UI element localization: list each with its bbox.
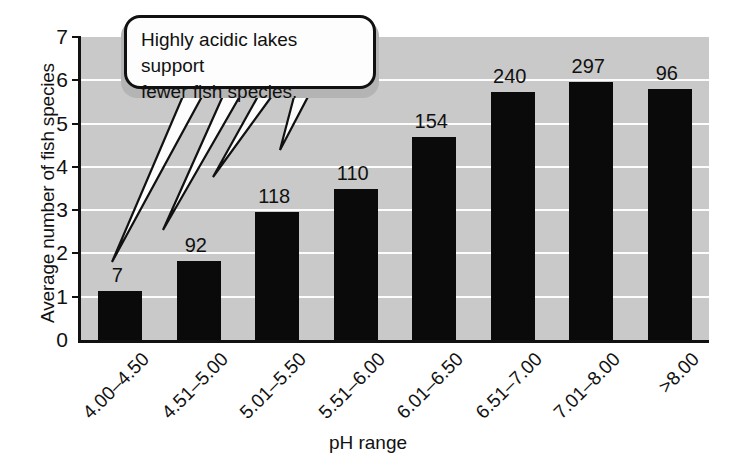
callout-text-line-2: fewer fish species. xyxy=(141,81,297,102)
x-axis-title: pH range xyxy=(0,432,736,454)
y-tick-label: 0 xyxy=(42,329,68,350)
callout-text-line-1: Highly acidic lakes support xyxy=(141,29,297,76)
bar-value-label: 96 xyxy=(627,63,707,83)
bar xyxy=(491,92,535,340)
annotation-callout: Highly acidic lakes support fewer fish s… xyxy=(124,15,376,89)
bar xyxy=(569,82,613,340)
bar xyxy=(98,291,142,340)
bar xyxy=(648,89,692,340)
y-tick-mark xyxy=(72,79,81,81)
chart-figure: Average number of fish species 01234567 … xyxy=(0,0,736,471)
bar xyxy=(255,212,299,340)
gridline xyxy=(81,296,709,298)
y-tick-mark xyxy=(72,123,81,125)
y-tick-label: 1 xyxy=(42,286,68,307)
bar-value-label: 240 xyxy=(470,66,550,86)
y-tick-label: 7 xyxy=(42,26,68,47)
y-tick-label: 2 xyxy=(42,242,68,263)
callout-text: Highly acidic lakes support fewer fish s… xyxy=(141,27,359,105)
bar-value-label: 118 xyxy=(234,186,314,206)
y-tick-mark xyxy=(72,36,81,38)
bar xyxy=(334,189,378,341)
y-tick-mark xyxy=(72,296,81,298)
y-tick-mark xyxy=(72,166,81,168)
bar xyxy=(412,137,456,340)
gridline xyxy=(81,209,709,211)
gridline xyxy=(81,166,709,168)
y-tick-mark xyxy=(72,209,81,211)
bar-value-label: 110 xyxy=(313,163,393,183)
bar xyxy=(177,261,221,340)
bar-value-label: 297 xyxy=(548,56,628,76)
y-tick-mark xyxy=(72,252,81,254)
bar-value-label: 92 xyxy=(156,235,236,255)
y-axis-tick-labels: 01234567 xyxy=(40,0,68,471)
y-tick-label: 6 xyxy=(42,69,68,90)
y-tick-label: 4 xyxy=(42,156,68,177)
y-tick-label: 5 xyxy=(42,113,68,134)
bar-value-label: 154 xyxy=(391,111,471,131)
y-tick-label: 3 xyxy=(42,199,68,220)
bar-value-label: 7 xyxy=(77,265,157,285)
